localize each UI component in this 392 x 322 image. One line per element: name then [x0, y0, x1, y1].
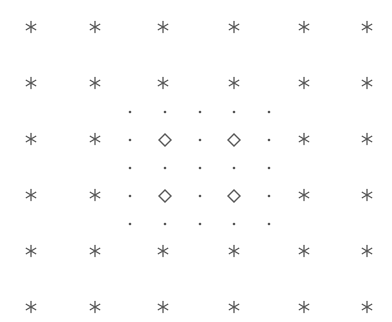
asterisk-marker — [90, 302, 100, 313]
asterisk-marker — [26, 22, 36, 33]
dot-marker — [268, 167, 271, 170]
dot-marker — [164, 167, 167, 170]
dot-marker — [199, 111, 202, 114]
diamond-marker — [228, 190, 240, 202]
dot-marker — [129, 139, 132, 142]
asterisk-marker — [362, 78, 372, 89]
asterisk-marker — [26, 246, 36, 257]
asterisk-marker — [362, 22, 372, 33]
asterisk-marker — [90, 22, 100, 33]
dot-marker — [129, 111, 132, 114]
dot-marker — [199, 167, 202, 170]
asterisk-marker — [299, 190, 309, 201]
dot-marker — [233, 167, 236, 170]
asterisk-marker — [26, 302, 36, 313]
asterisk-marker — [158, 22, 168, 33]
dot-marker — [199, 195, 202, 198]
asterisk-marker — [299, 302, 309, 313]
asterisk-marker — [362, 246, 372, 257]
asterisk-marker — [299, 78, 309, 89]
dot-marker — [129, 195, 132, 198]
dot-marker — [164, 223, 167, 226]
diamond-marker — [159, 190, 171, 202]
asterisk-marker — [229, 302, 239, 313]
asterisk-marker — [26, 78, 36, 89]
asterisk-marker — [299, 134, 309, 145]
dot-marker — [233, 223, 236, 226]
dot-marker — [233, 111, 236, 114]
asterisk-marker — [90, 134, 100, 145]
dot-marker — [268, 111, 271, 114]
asterisk-marker — [299, 246, 309, 257]
dot-marker — [129, 223, 132, 226]
asterisk-marker — [158, 302, 168, 313]
asterisk-marker — [362, 134, 372, 145]
asterisk-marker — [362, 302, 372, 313]
asterisk-marker — [229, 246, 239, 257]
asterisk-marker — [90, 190, 100, 201]
diamond-marker — [159, 134, 171, 146]
asterisk-marker — [299, 22, 309, 33]
asterisk-marker — [229, 22, 239, 33]
asterisk-marker — [26, 134, 36, 145]
asterisk-marker — [90, 246, 100, 257]
dot-marker — [199, 223, 202, 226]
asterisk-marker — [26, 190, 36, 201]
diamond-marker — [228, 134, 240, 146]
dot-marker — [268, 195, 271, 198]
asterisk-marker — [158, 78, 168, 89]
asterisk-marker — [362, 190, 372, 201]
asterisk-marker — [158, 246, 168, 257]
asterisk-marker — [90, 78, 100, 89]
lattice-plot — [0, 0, 392, 322]
dot-marker — [129, 167, 132, 170]
dot-marker — [268, 139, 271, 142]
lattice-diagram — [0, 0, 392, 322]
dot-marker — [164, 111, 167, 114]
asterisk-marker — [229, 78, 239, 89]
dot-marker — [268, 223, 271, 226]
dot-marker — [199, 139, 202, 142]
